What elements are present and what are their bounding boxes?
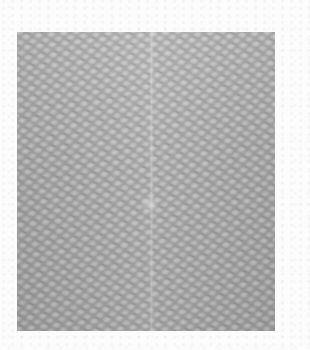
image-canvas: Grayscale micrograph of a textured, wove… xyxy=(0,0,310,350)
image-description: Grayscale micrograph of a textured, wove… xyxy=(0,0,31,1)
micrograph-specimen xyxy=(17,32,275,331)
shading-overlay xyxy=(17,32,275,331)
